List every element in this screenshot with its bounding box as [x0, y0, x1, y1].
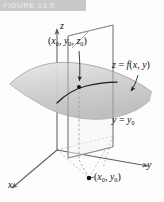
label-point-x0-y0: (x0, y0): [94, 172, 121, 183]
label-axis-z: z: [60, 21, 64, 31]
label-axis-x: x: [8, 180, 12, 190]
label-axis-y: y: [147, 160, 151, 170]
label-plane-equation: y = y0: [112, 115, 135, 126]
point-3d-marker: [77, 85, 81, 89]
label-point-x0-y0-z0: (x0, y0, z0): [48, 36, 87, 47]
label-surface-equation: z = f(x, y): [112, 60, 150, 70]
axis-x-line: [12, 150, 57, 188]
figure-illustration: [0, 0, 164, 202]
figure-root: FIGURE 13.9: [0, 0, 164, 202]
